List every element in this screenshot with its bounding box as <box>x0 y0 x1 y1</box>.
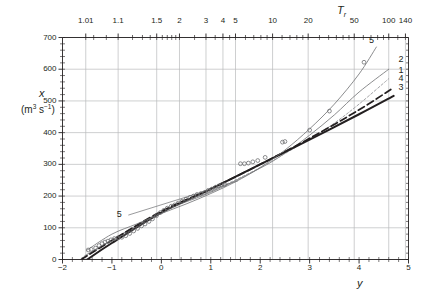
curve-label-4: 4 <box>399 74 404 83</box>
curve-label-5: 5 <box>369 36 374 45</box>
x-tick-label: 4 <box>357 264 361 272</box>
top-tick-label: 50 <box>350 17 359 25</box>
x-tick-label: 5 <box>406 264 410 272</box>
y-units-prefix: (m <box>21 104 33 115</box>
y-tick-label: 500 <box>43 97 56 105</box>
top-axis-title-sub-r: r <box>344 11 346 18</box>
y-tick-label: 700 <box>43 34 56 42</box>
y-tick-label: 600 <box>43 65 56 73</box>
curve-label-3: 3 <box>399 83 404 92</box>
curve-5 <box>87 47 376 250</box>
gumbel-probability-plot: x (m3 s−1) y Tr 1.011.11.523451020501001… <box>0 0 429 301</box>
x-tick-label: 2 <box>258 264 262 272</box>
curve-5-leader-line <box>128 181 238 215</box>
top-tick-label: 100 <box>382 17 395 25</box>
data-point <box>283 140 287 144</box>
x-tick-label: −1 <box>107 264 116 272</box>
x-tick-label: 0 <box>159 264 163 272</box>
chart-canvas <box>0 0 429 301</box>
y-tick-label: 400 <box>43 129 56 137</box>
x-tick-label: −2 <box>58 264 67 272</box>
top-tick-label: 1.5 <box>151 17 162 25</box>
top-tick-label: 2 <box>177 17 181 25</box>
curve-label-2: 2 <box>399 55 404 64</box>
top-tick-label: 5 <box>233 17 237 25</box>
top-tick-label: 4 <box>221 17 225 25</box>
y-tick-label: 300 <box>43 160 56 168</box>
x-axis-title: y <box>357 278 363 289</box>
top-tick-label: 3 <box>204 17 208 25</box>
top-tick-label: 1.01 <box>78 17 94 25</box>
curve-label-5-left: 5 <box>117 210 122 219</box>
top-tick-label: 140 <box>399 17 412 25</box>
y-tick-label: 200 <box>43 192 56 200</box>
y-axis-units: (m3 s−1) <box>21 104 55 115</box>
data-point <box>239 162 243 166</box>
y-units-suffix: ) <box>52 104 55 115</box>
top-tick-label: 1.1 <box>113 17 124 25</box>
y-units-mid: s <box>36 104 44 115</box>
y-tick-label: 100 <box>43 224 56 232</box>
top-axis-title: Tr <box>337 5 346 18</box>
top-tick-label: 10 <box>268 17 277 25</box>
data-point <box>362 60 366 64</box>
top-axis-title-T: T <box>337 4 344 16</box>
data-point <box>251 160 255 164</box>
data-point <box>263 155 267 159</box>
x-tick-label: 1 <box>209 264 213 272</box>
y-tick-label: 0 <box>52 256 56 264</box>
data-point <box>243 162 247 166</box>
x-tick-label: 3 <box>307 264 311 272</box>
data-point <box>256 159 260 163</box>
top-tick-label: 20 <box>304 17 313 25</box>
